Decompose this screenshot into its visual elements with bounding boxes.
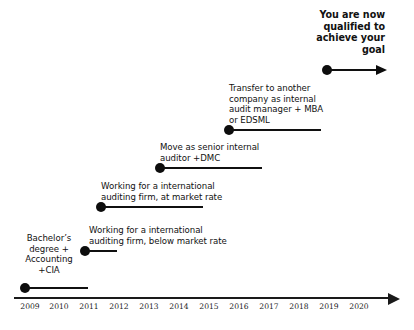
axis-tick-2009: 2009 bbox=[16, 302, 44, 311]
milestone-bachelors-degree-label: Bachelor’s degree + Accounting +CIA bbox=[17, 233, 81, 275]
milestone-transfer-audit-manager-label: Transfer to another company as internal … bbox=[229, 83, 359, 125]
axis-arrow-icon bbox=[388, 293, 400, 305]
milestone-international-firm-below-market-rate-bar bbox=[85, 250, 117, 253]
axis-tick-2015: 2015 bbox=[195, 302, 223, 311]
timeline-diagram: You are now qualified to achieve your go… bbox=[0, 0, 414, 330]
milestone-senior-internal-auditor-bar bbox=[160, 167, 262, 170]
axis-tick-2019: 2019 bbox=[315, 302, 343, 311]
axis-line bbox=[14, 297, 390, 299]
axis-tick-2010: 2010 bbox=[45, 302, 73, 311]
axis-tick-2020: 2020 bbox=[345, 302, 373, 311]
milestone-transfer-audit-manager-bar bbox=[229, 129, 321, 132]
axis-tick-2012: 2012 bbox=[105, 302, 133, 311]
axis-tick-2017: 2017 bbox=[255, 302, 283, 311]
axis-tick-2011: 2011 bbox=[75, 302, 103, 311]
axis-tick-2014: 2014 bbox=[165, 302, 193, 311]
milestone-goal-arrow-icon bbox=[376, 65, 387, 75]
milestone-goal-label: You are now qualified to achieve your go… bbox=[301, 9, 385, 55]
axis-tick-2018: 2018 bbox=[285, 302, 313, 311]
milestone-international-firm-market-rate-label: Working for a international auditing fir… bbox=[101, 181, 261, 202]
milestone-bachelors-degree-bar bbox=[25, 287, 88, 290]
milestone-senior-internal-auditor-label: Move as senior internal auditor +DMC bbox=[160, 142, 310, 163]
axis-tick-2013: 2013 bbox=[135, 302, 163, 311]
milestone-goal-bar bbox=[327, 69, 381, 72]
axis-tick-2016: 2016 bbox=[225, 302, 253, 311]
milestone-international-firm-market-rate-bar bbox=[101, 206, 203, 209]
milestone-international-firm-below-market-rate-label: Working for a international auditing fir… bbox=[89, 225, 264, 246]
